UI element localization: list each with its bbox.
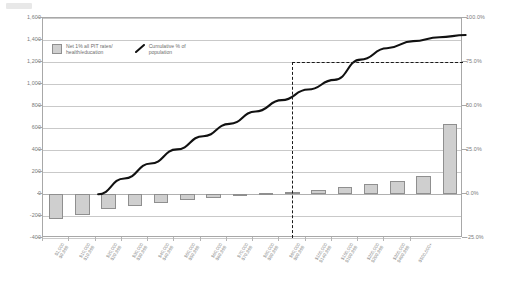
category-tick-mark bbox=[173, 237, 174, 241]
bar bbox=[49, 194, 64, 219]
category-tick-mark bbox=[200, 237, 201, 241]
category-tick-mark bbox=[357, 237, 358, 241]
left-axis-tick-label: -400 bbox=[1, 234, 41, 240]
document-artifact-mark bbox=[6, 3, 32, 9]
annotation-vertical-dashed-line bbox=[292, 62, 293, 238]
left-axis-tick-label: 1,200 bbox=[1, 58, 41, 64]
legend-line-line2: population bbox=[149, 49, 173, 55]
left-axis-tick-label: 1,000 bbox=[1, 80, 41, 86]
cumulative-line-path bbox=[98, 35, 466, 194]
legend-bars-line2: health/education bbox=[66, 49, 103, 55]
left-axis-tick-label: 200 bbox=[1, 168, 41, 174]
legend-item-line: Cumulative % of population bbox=[135, 43, 186, 55]
category-tick-mark bbox=[95, 237, 96, 241]
chart-legend: Net 1% all PIT rates/ health/education C… bbox=[52, 43, 186, 55]
category-tick-mark bbox=[331, 237, 332, 241]
legend-label-line: Cumulative % of population bbox=[149, 43, 186, 55]
line-swatch-icon bbox=[135, 44, 145, 53]
category-tick-mark bbox=[68, 237, 69, 241]
annotation-horizontal-dashed-line bbox=[292, 62, 463, 63]
left-axis-tick-label: 400 bbox=[1, 146, 41, 152]
right-axis-tick-label: 100.0% bbox=[466, 14, 506, 20]
category-tick-mark bbox=[147, 237, 148, 241]
category-axis-label: $1,000$9,999 bbox=[54, 242, 70, 259]
legend-bars-line1: Net 1% all PIT rates/ bbox=[66, 43, 113, 49]
cumulative-line-series bbox=[85, 35, 505, 255]
chart-canvas: -400-20002004006008001,0001,2001,4001,60… bbox=[0, 0, 506, 296]
bar-swatch-icon bbox=[52, 44, 62, 54]
legend-label-bars: Net 1% all PIT rates/ health/education bbox=[66, 43, 113, 55]
legend-line-line1: Cumulative % of bbox=[149, 43, 186, 49]
left-axis-tick-label: 800 bbox=[1, 102, 41, 108]
category-tick-mark bbox=[278, 237, 279, 241]
category-tick-mark bbox=[383, 237, 384, 241]
right-axis-tick-mark bbox=[462, 17, 467, 18]
category-tick-mark bbox=[410, 237, 411, 241]
category-tick-mark bbox=[252, 237, 253, 241]
left-axis-tick-label: 1,600 bbox=[1, 14, 41, 20]
left-axis-tick-label: 600 bbox=[1, 124, 41, 130]
category-tick-mark bbox=[226, 237, 227, 241]
gridline bbox=[43, 18, 461, 19]
left-axis-tick-label: 0 bbox=[1, 190, 41, 196]
left-axis-tick-label: 1,400 bbox=[1, 36, 41, 42]
left-axis-tick-label: -200 bbox=[1, 212, 41, 218]
legend-item-bars: Net 1% all PIT rates/ health/education bbox=[52, 43, 113, 55]
category-tick-mark bbox=[305, 237, 306, 241]
category-tick-mark bbox=[42, 237, 43, 241]
category-tick-mark bbox=[121, 237, 122, 241]
